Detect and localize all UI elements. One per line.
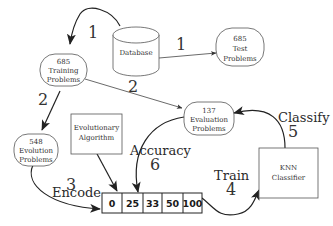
ea-label-2: Algorithm <box>78 134 115 142</box>
array-cell-3: 50 <box>166 198 180 209</box>
encoding-array: 0 25 33 50 100 <box>102 193 203 213</box>
array-cell-2: 33 <box>146 198 159 209</box>
encode-label: Encode <box>52 185 101 200</box>
training-problems-node[interactable]: 685 Training Problems <box>40 54 87 86</box>
evaluation-count: 137 <box>202 107 215 115</box>
edge-db-to-test <box>159 53 216 58</box>
database-node[interactable]: Database <box>113 27 159 76</box>
ea-label-1: Evolutionary <box>74 124 119 132</box>
evolution-label-2: Problems <box>19 156 53 164</box>
knn-classifier-node[interactable]: KNN Classifier <box>259 148 318 198</box>
array-cell-0: 0 <box>109 198 116 209</box>
training-label-2: Problems <box>47 76 81 84</box>
accuracy-label: Accuracy <box>129 143 192 158</box>
training-label-1: Training <box>48 67 79 75</box>
array-cell-1: 25 <box>126 198 139 209</box>
step-4: 4 <box>226 180 236 199</box>
test-problems-node[interactable]: 685 Test Problems <box>216 28 264 66</box>
step-1-test: 1 <box>176 35 186 54</box>
classify-label: Classify <box>278 110 330 125</box>
test-label-1: Test <box>233 45 248 53</box>
knn-label-1: KNN <box>280 164 297 172</box>
evolution-problems-node[interactable]: 548 Evolution Problems <box>14 134 58 166</box>
step-2-evolution: 2 <box>38 90 48 109</box>
evaluation-label-2: Problems <box>192 125 226 133</box>
knn-label-2: Classifier <box>272 174 306 182</box>
array-cell-4: 100 <box>183 198 203 209</box>
step-6: 6 <box>150 155 160 174</box>
training-count: 685 <box>57 58 70 66</box>
evolution-count: 548 <box>29 138 42 146</box>
evaluation-label-1: Evaluation <box>190 116 228 124</box>
diagram-canvas: Database 685 Training Problems 685 Test … <box>0 0 333 226</box>
evolution-label-1: Evolution <box>19 147 53 155</box>
database-label: Database <box>119 49 152 57</box>
test-label-2: Problems <box>223 55 257 63</box>
evolutionary-algorithm-node[interactable]: Evolutionary Algorithm <box>71 114 122 154</box>
evaluation-problems-node[interactable]: 137 Evaluation Problems <box>184 102 234 135</box>
test-count: 685 <box>233 35 246 43</box>
step-2-evaluation: 2 <box>128 77 138 96</box>
step-5: 5 <box>288 122 298 141</box>
step-1-training: 1 <box>88 23 98 42</box>
